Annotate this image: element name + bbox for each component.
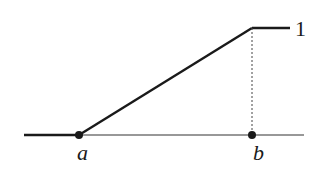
label-b: b <box>253 140 264 165</box>
ramp-function-diagram: a b 1 <box>0 0 328 174</box>
label-a: a <box>77 140 88 165</box>
point-a <box>75 131 83 139</box>
point-b <box>248 131 256 139</box>
ramp-segment <box>79 28 252 135</box>
label-one: 1 <box>295 16 306 41</box>
